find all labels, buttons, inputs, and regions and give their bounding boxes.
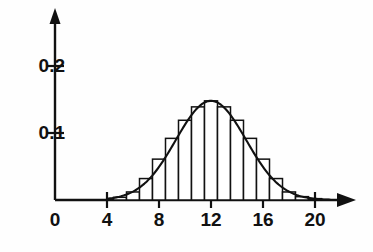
histogram-bar — [218, 107, 231, 200]
x-tick-label-16: 16 — [252, 209, 273, 231]
x-tick-label-8: 8 — [154, 209, 165, 231]
histogram-bar — [192, 107, 205, 200]
histogram-figure: 0 4 8 12 16 20 0.1 0.2 — [0, 0, 373, 252]
y-tick-label-0.2: 0.2 — [39, 55, 65, 77]
histogram-bars — [114, 101, 322, 200]
y-tick-label-0.1: 0.1 — [39, 122, 65, 144]
histogram-bar — [205, 101, 218, 200]
x-tick-label-12: 12 — [200, 209, 221, 231]
y-axis — [50, 8, 61, 200]
x-tick-label-4: 4 — [102, 209, 113, 231]
x-tick-label-20: 20 — [304, 209, 325, 231]
x-tick-label-0: 0 — [50, 209, 61, 231]
